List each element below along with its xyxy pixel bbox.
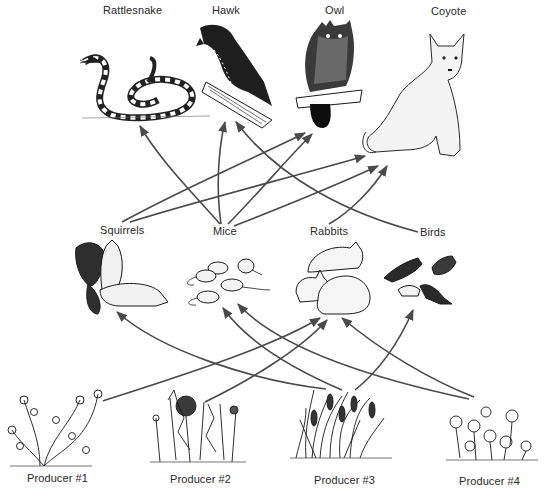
arrow-producer3-to-squirrels [117,312,326,389]
squirrels-drawing [76,240,168,314]
arrow-mice-to-owl [228,134,312,224]
birds-drawing [384,256,456,304]
dandelion-drawing [150,390,246,462]
owl-drawing [296,20,362,128]
flowering-plant-drawing [8,390,102,466]
hawk-drawing [196,25,272,128]
rattlesnake-drawing [80,58,210,118]
food-web-diagram [0,0,548,498]
rabbits-drawing [296,242,370,314]
arrow-producer1-to-rabbits [103,318,320,401]
grass-drawing [290,390,392,458]
coyote-drawing [363,34,464,156]
arrow-squirrels-to-coyote [130,156,365,222]
arrow-producer3-to-mice [223,308,342,390]
mice-drawing [187,259,270,305]
clover-drawing [446,407,538,460]
arrow-producer4-to-mice [238,304,469,399]
arrow-mice-to-rattlesnake [140,126,220,224]
